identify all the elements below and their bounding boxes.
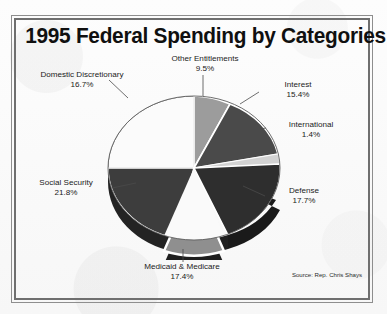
- slice-label-other-entitlements: Other Entitlements 9.5%: [150, 54, 260, 74]
- slice-label-domestic-discretionary: Domestic Discretionary 16.7%: [20, 70, 144, 90]
- pie-chart-svg: [78, 82, 310, 260]
- slice-label-defense: Defense 17.7%: [268, 186, 340, 206]
- slice-label-name: Social Security: [16, 178, 116, 188]
- slice-label-percent: 15.4%: [262, 90, 334, 100]
- source-credit: Source: Rep. Chris Shays: [252, 271, 362, 278]
- chart-page: 1995 Federal Spending by Categories: [0, 0, 387, 314]
- slice-label-medicaid-medicare: Medicaid & Medicare 17.4%: [116, 262, 248, 282]
- slice-label-name: Medicaid & Medicare: [116, 262, 248, 272]
- slice-label-international: International 1.4%: [268, 120, 354, 140]
- slice-label-name: Interest: [262, 80, 334, 90]
- slice-label-percent: 17.4%: [116, 272, 248, 282]
- slice-label-percent: 1.4%: [268, 130, 354, 140]
- slice-label-social-security: Social Security 21.8%: [16, 178, 116, 198]
- slice-label-percent: 17.7%: [268, 196, 340, 206]
- slice-label-name: International: [268, 120, 354, 130]
- slice-label-percent: 21.8%: [16, 188, 116, 198]
- slice-label-name: Defense: [268, 186, 340, 196]
- slice-label-percent: 16.7%: [20, 80, 144, 90]
- slice-label-name: Domestic Discretionary: [20, 70, 144, 80]
- slice-label-percent: 9.5%: [150, 64, 260, 74]
- slice-label-interest: Interest 15.4%: [262, 80, 334, 100]
- slice-label-name: Other Entitlements: [150, 54, 260, 64]
